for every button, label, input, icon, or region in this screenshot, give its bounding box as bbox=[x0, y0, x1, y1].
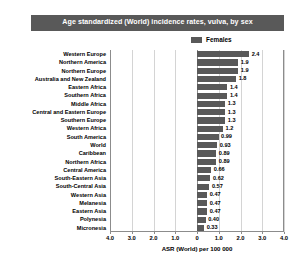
category-label: Micronesia bbox=[0, 224, 106, 233]
bar-value-label: 0.47 bbox=[210, 191, 221, 198]
bar-females bbox=[197, 93, 227, 99]
table-row: 0.47 bbox=[110, 191, 284, 199]
bar-females bbox=[197, 84, 227, 90]
bar-value-label: 0.99 bbox=[221, 133, 232, 140]
table-row: 1.4 bbox=[110, 91, 284, 99]
bar-value-label: 2.4 bbox=[252, 51, 260, 58]
chart-figure: Age standardized (World) incidence rates… bbox=[0, 0, 302, 270]
table-row: 0.62 bbox=[110, 174, 284, 182]
bar-value-label: 1.3 bbox=[228, 117, 236, 124]
x-axis-ticks: 4.03.02.01.001.02.03.04.0 bbox=[110, 232, 284, 242]
category-axis-labels: Western EuropeNorthern AmericaNorthern E… bbox=[0, 50, 106, 232]
bar-value-label: 1.4 bbox=[230, 92, 238, 99]
tick-label: 4.0 bbox=[106, 235, 114, 241]
bar-females bbox=[197, 101, 225, 107]
tick-label: 3.0 bbox=[258, 235, 266, 241]
bar-value-label: 1.8 bbox=[239, 75, 247, 82]
bar-value-label: 0.47 bbox=[210, 200, 221, 207]
table-row: 0.89 bbox=[110, 149, 284, 157]
bar-value-label: 0.33 bbox=[207, 224, 218, 231]
tick-label: 3.0 bbox=[128, 235, 136, 241]
tick-label: 0 bbox=[195, 235, 198, 241]
tick-label: 1.0 bbox=[215, 235, 223, 241]
table-row: 0.66 bbox=[110, 166, 284, 174]
bar-females bbox=[197, 59, 238, 65]
table-row: 2.4 bbox=[110, 50, 284, 58]
bar-females bbox=[197, 159, 216, 165]
bar-value-label: 0.89 bbox=[219, 150, 230, 157]
bar-females bbox=[197, 134, 219, 140]
tick-label: 1.0 bbox=[171, 235, 179, 241]
table-row: 0.47 bbox=[110, 199, 284, 207]
gridline bbox=[284, 50, 285, 232]
bar-females bbox=[197, 192, 207, 198]
bar-females bbox=[197, 126, 223, 132]
table-row: 0.33 bbox=[110, 224, 284, 232]
table-row: 0.89 bbox=[110, 158, 284, 166]
table-row: 1.3 bbox=[110, 116, 284, 124]
bar-females bbox=[197, 200, 207, 206]
table-row: 1.9 bbox=[110, 58, 284, 66]
x-axis-title: ASR (World) per 100 000 bbox=[110, 245, 284, 252]
table-row: 0.47 bbox=[110, 207, 284, 215]
plot-area: 2.41.91.91.81.41.41.31.31.31.20.990.930.… bbox=[110, 50, 284, 232]
bar-value-label: 0.57 bbox=[212, 183, 223, 190]
bar-value-label: 0.62 bbox=[213, 175, 224, 182]
chart-title-banner: Age standardized (World) incidence rates… bbox=[31, 15, 284, 31]
bar-value-label: 0.89 bbox=[219, 158, 230, 165]
bar-value-label: 1.9 bbox=[241, 67, 249, 74]
bar-females bbox=[197, 175, 210, 181]
bar-females bbox=[197, 51, 249, 57]
bar-females bbox=[197, 208, 207, 214]
bar-females bbox=[197, 167, 211, 173]
table-row: 0.93 bbox=[110, 141, 284, 149]
bar-value-label: 0.66 bbox=[214, 166, 225, 173]
table-row: 1.9 bbox=[110, 67, 284, 75]
tick-label: 2.0 bbox=[236, 235, 244, 241]
table-row: 1.2 bbox=[110, 124, 284, 132]
bar-females bbox=[197, 109, 225, 115]
table-row: 1.4 bbox=[110, 83, 284, 91]
bar-value-label: 0.47 bbox=[210, 208, 221, 215]
bar-females bbox=[197, 225, 204, 231]
table-row: 1.3 bbox=[110, 108, 284, 116]
chart-legend: Females bbox=[191, 37, 232, 43]
bar-females bbox=[197, 117, 225, 123]
table-row: 1.8 bbox=[110, 75, 284, 83]
table-row: 0.57 bbox=[110, 182, 284, 190]
bar-value-label: 1.2 bbox=[226, 125, 234, 132]
chart-title: Age standardized (World) incidence rates… bbox=[62, 19, 252, 26]
legend-swatch-females bbox=[191, 37, 202, 43]
bar-rows: 2.41.91.91.81.41.41.31.31.31.20.990.930.… bbox=[110, 50, 284, 232]
bar-value-label: 1.3 bbox=[228, 100, 236, 107]
table-row: 0.99 bbox=[110, 133, 284, 141]
bar-value-label: 0.93 bbox=[220, 142, 231, 149]
table-row: 1.3 bbox=[110, 100, 284, 108]
bar-females bbox=[197, 184, 209, 190]
bar-females bbox=[197, 76, 236, 82]
bar-value-label: 1.3 bbox=[228, 109, 236, 116]
bar-females bbox=[197, 150, 216, 156]
tick-label: 2.0 bbox=[149, 235, 157, 241]
bar-value-label: 1.9 bbox=[241, 59, 249, 66]
bar-value-label: 1.4 bbox=[230, 84, 238, 91]
bar-females bbox=[197, 217, 206, 223]
tick-label: 4.0 bbox=[280, 235, 288, 241]
table-row: 0.40 bbox=[110, 215, 284, 223]
bar-value-label: 0.40 bbox=[208, 216, 219, 223]
legend-label-females: Females bbox=[206, 37, 232, 43]
bar-females bbox=[197, 68, 238, 74]
bar-females bbox=[197, 142, 217, 148]
